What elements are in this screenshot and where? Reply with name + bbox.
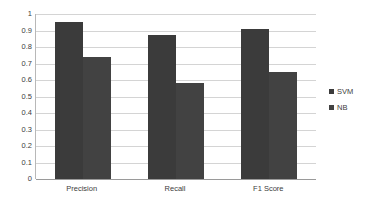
legend: SVMNB bbox=[329, 85, 373, 117]
bar-nb-recall bbox=[176, 83, 204, 179]
y-tick-label: 0.3 bbox=[4, 126, 32, 134]
legend-item-svm[interactable]: SVM bbox=[329, 85, 373, 98]
bar-svm-precision bbox=[55, 22, 83, 179]
legend-swatch-icon bbox=[329, 105, 334, 110]
x-tick-label: F1 Score bbox=[222, 184, 315, 193]
bar-group bbox=[55, 14, 111, 179]
bar-svm-f1-score bbox=[241, 29, 269, 179]
bar-nb-precision bbox=[83, 57, 111, 179]
y-tick-label: 0.5 bbox=[4, 93, 32, 101]
legend-swatch-icon bbox=[329, 89, 334, 94]
y-tick-label: 0.8 bbox=[4, 43, 32, 51]
legend-item-nb[interactable]: NB bbox=[329, 101, 373, 114]
bar-nb-f1-score bbox=[269, 72, 297, 179]
y-tick-label: 0.7 bbox=[4, 60, 32, 68]
legend-label: NB bbox=[337, 104, 347, 112]
plot-area bbox=[35, 14, 316, 179]
bar-group bbox=[148, 14, 204, 179]
y-tick-label: 1 bbox=[4, 10, 32, 18]
y-tick-label: 0 bbox=[4, 175, 32, 183]
x-tick-label: Precision bbox=[35, 184, 128, 193]
y-tick-label: 0.2 bbox=[4, 142, 32, 150]
y-tick-label: 0.6 bbox=[4, 76, 32, 84]
x-tick-label: Recall bbox=[128, 184, 221, 193]
bar-group bbox=[241, 14, 297, 179]
bar-chart: 10.90.80.70.60.50.40.30.20.10 PrecisionR… bbox=[0, 0, 373, 204]
y-tick-label: 0.1 bbox=[4, 159, 32, 167]
y-tick-label: 0.9 bbox=[4, 27, 32, 35]
axis-baseline bbox=[36, 179, 316, 180]
bar-svm-recall bbox=[148, 35, 176, 179]
y-tick-label: 0.4 bbox=[4, 109, 32, 117]
legend-label: SVM bbox=[337, 88, 353, 96]
y-axis: 10.90.80.70.60.50.40.30.20.10 bbox=[0, 0, 32, 204]
